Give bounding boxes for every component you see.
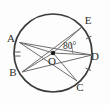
angle-label-80: 80° xyxy=(63,41,77,51)
point-label-a: A xyxy=(7,32,15,44)
geometry-canvas: A B C D E O 80° xyxy=(0,0,110,105)
point-label-d: D xyxy=(91,50,99,62)
circle-geometry-figure: A B C D E O 80° xyxy=(0,0,110,105)
point-label-e: E xyxy=(85,14,92,26)
point-label-b: B xyxy=(9,66,16,78)
point-label-c: C xyxy=(76,81,83,93)
center-label-o: O xyxy=(48,55,56,67)
